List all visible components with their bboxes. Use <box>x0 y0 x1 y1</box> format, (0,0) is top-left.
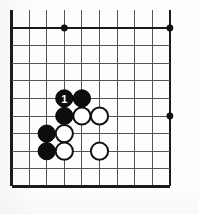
stone-disc <box>56 125 73 142</box>
stone-disc <box>38 125 55 142</box>
stone-move-number: 1 <box>61 93 67 105</box>
stone-black-7[interactable] <box>38 143 55 160</box>
stone-black-2[interactable] <box>56 107 73 124</box>
stone-disc <box>91 107 108 124</box>
stone-disc <box>91 143 108 160</box>
go-board-figure: 1 <box>0 0 199 214</box>
stone-disc <box>56 143 73 160</box>
stone-white-9[interactable] <box>91 143 108 160</box>
stone-black-5[interactable] <box>38 125 55 142</box>
star-point-0 <box>61 25 68 32</box>
stone-white-6[interactable] <box>56 125 73 142</box>
stone-white-4[interactable] <box>91 107 108 124</box>
stone-disc <box>38 143 55 160</box>
star-point-2 <box>167 113 174 120</box>
stones-group[interactable]: 1 <box>38 90 108 160</box>
stone-black-1[interactable] <box>73 90 90 107</box>
stone-disc <box>73 90 90 107</box>
stone-black-0[interactable]: 1 <box>56 90 73 107</box>
star-point-1 <box>167 25 174 32</box>
stone-disc <box>73 107 90 124</box>
stone-disc <box>56 107 73 124</box>
stone-white-3[interactable] <box>73 107 90 124</box>
stone-white-8[interactable] <box>56 143 73 160</box>
go-board-svg[interactable]: 1 <box>0 0 199 214</box>
